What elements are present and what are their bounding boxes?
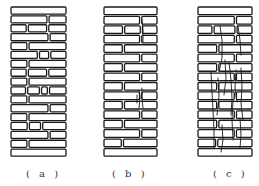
brick <box>104 64 122 72</box>
brick <box>124 83 157 91</box>
brick <box>104 149 157 157</box>
brick <box>11 140 27 147</box>
brick <box>198 101 217 109</box>
brick <box>43 122 66 129</box>
brick <box>198 7 252 15</box>
brick <box>219 64 252 72</box>
brick <box>11 131 48 138</box>
brick <box>198 130 234 138</box>
brick <box>236 54 252 62</box>
brick <box>29 114 66 121</box>
brick <box>104 101 122 109</box>
brick <box>236 130 252 138</box>
brick <box>142 54 157 62</box>
brick <box>42 87 48 94</box>
brick <box>50 131 66 138</box>
brick <box>236 73 252 81</box>
brick <box>142 26 157 34</box>
brick <box>51 51 66 58</box>
brick <box>198 149 252 157</box>
brick <box>11 78 27 85</box>
brick <box>198 64 217 72</box>
brick <box>29 96 66 103</box>
brick <box>198 45 217 53</box>
brick <box>104 130 140 138</box>
brick <box>198 139 216 147</box>
brick <box>142 130 157 138</box>
brick <box>28 69 46 76</box>
brick <box>198 35 234 43</box>
brick <box>124 45 157 53</box>
brick <box>40 51 49 58</box>
brick <box>124 120 157 128</box>
brick <box>104 73 140 81</box>
brick <box>104 26 122 34</box>
brick <box>219 101 252 109</box>
brick <box>49 25 66 32</box>
brick <box>124 101 157 109</box>
brick <box>29 43 66 50</box>
brick <box>50 105 66 112</box>
brick <box>198 26 212 34</box>
brick <box>50 34 66 41</box>
brick <box>50 87 66 94</box>
brick <box>198 111 234 119</box>
brick-column-c <box>198 7 252 156</box>
brick <box>236 35 252 43</box>
brick <box>104 16 140 24</box>
brick <box>29 140 66 147</box>
brick <box>11 25 26 32</box>
brick-column-a <box>11 7 66 156</box>
brick <box>11 105 48 112</box>
brick <box>29 122 40 129</box>
brick <box>219 120 252 128</box>
brick <box>198 73 234 81</box>
brick <box>198 54 234 62</box>
brick <box>11 114 27 121</box>
brick <box>11 149 66 156</box>
brick <box>236 92 252 100</box>
brick <box>28 25 46 32</box>
brick <box>11 96 27 103</box>
brick <box>11 69 26 76</box>
panel-label-b: ( b ) <box>112 168 148 179</box>
panel-label-a: ( a ) <box>26 168 61 179</box>
brick <box>104 120 122 128</box>
brick <box>104 139 121 147</box>
brick <box>198 92 234 100</box>
brick <box>123 139 157 147</box>
brick <box>11 16 47 23</box>
brick <box>49 69 66 76</box>
brick <box>124 64 157 72</box>
brick <box>236 16 252 24</box>
brick <box>104 7 157 15</box>
brick <box>104 35 140 43</box>
brick <box>11 122 27 129</box>
brick <box>142 73 157 81</box>
brick <box>198 16 234 24</box>
brick <box>104 45 122 53</box>
brick <box>214 26 235 34</box>
brick <box>219 45 252 53</box>
brick <box>142 16 157 24</box>
brick <box>11 7 66 14</box>
brick-column-b <box>104 7 157 156</box>
brick <box>11 51 37 58</box>
brick <box>104 83 122 91</box>
brick <box>198 83 217 91</box>
brick <box>29 78 66 85</box>
brick <box>125 26 141 34</box>
brick <box>104 92 140 100</box>
brick <box>11 34 48 41</box>
brick <box>11 87 26 94</box>
brick <box>142 111 157 119</box>
brick <box>236 111 252 119</box>
brick <box>142 35 157 43</box>
brick <box>29 60 66 67</box>
brick <box>104 111 140 119</box>
brick <box>142 92 157 100</box>
brick <box>49 16 66 23</box>
panel-label-c: ( c ) <box>213 168 248 179</box>
brick <box>11 60 27 67</box>
masonry-columns-diagram <box>0 0 259 186</box>
